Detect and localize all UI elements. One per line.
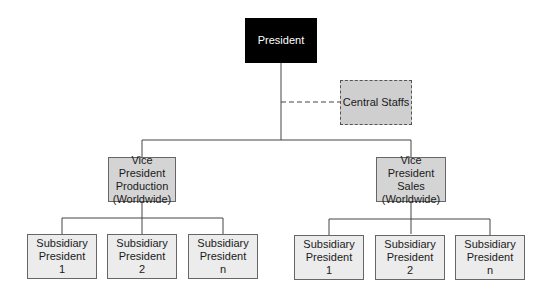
sub-line: President	[116, 250, 167, 263]
sub-line: 1	[303, 264, 354, 277]
org-chart: President Central Staffs Vice President …	[0, 0, 552, 298]
sub-line: President	[384, 251, 435, 264]
central-staffs-box: Central Staffs	[340, 80, 412, 125]
sales-subsidiary-n: Subsidiary President n	[455, 235, 525, 280]
sub-line: n	[464, 264, 515, 277]
sales-subsidiary-2: Subsidiary President 2	[375, 235, 445, 280]
sub-line: n	[197, 263, 248, 276]
sub-line: 2	[116, 263, 167, 276]
sub-line: Subsidiary	[116, 237, 167, 250]
vp-sales-line-1: Vice President	[377, 154, 445, 180]
sub-line: Subsidiary	[197, 237, 248, 250]
president-label: President	[258, 34, 304, 47]
sub-line: 2	[384, 264, 435, 277]
sub-line: 1	[36, 263, 87, 276]
sub-line: President	[197, 250, 248, 263]
production-subsidiary-1: Subsidiary President 1	[27, 234, 97, 279]
vp-sales-line-2: Sales	[377, 180, 445, 193]
vp-production-line-3: (Worldwide)	[109, 193, 175, 206]
production-subsidiary-2: Subsidiary President 2	[107, 234, 177, 279]
sub-line: President	[464, 251, 515, 264]
sub-line: President	[36, 250, 87, 263]
sales-subsidiary-1: Subsidiary President 1	[294, 235, 364, 280]
sub-line: Subsidiary	[36, 237, 87, 250]
vp-sales-box: Vice President Sales (Worldwide)	[376, 157, 446, 202]
vp-production-box: Vice President Production (Worldwide)	[108, 157, 176, 202]
sub-line: Subsidiary	[303, 238, 354, 251]
vp-sales-line-3: (Worldwide)	[377, 193, 445, 206]
sub-line: President	[303, 251, 354, 264]
vp-production-line-1: Vice President	[109, 154, 175, 180]
production-subsidiary-n: Subsidiary President n	[188, 234, 258, 279]
president-box: President	[245, 18, 317, 63]
vp-production-line-2: Production	[109, 180, 175, 193]
sub-line: Subsidiary	[384, 238, 435, 251]
sub-line: Subsidiary	[464, 238, 515, 251]
central-staffs-label: Central Staffs	[343, 96, 409, 109]
